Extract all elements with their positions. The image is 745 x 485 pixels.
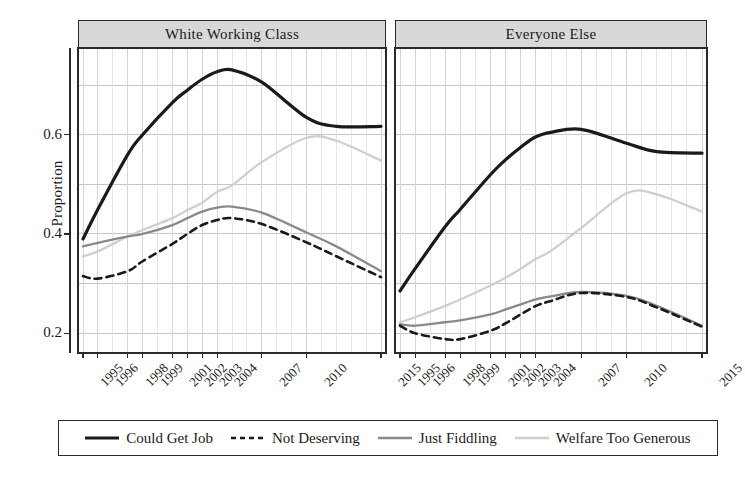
chart-legend: Could Get JobNot DeservingJust FiddlingW… [58,420,718,456]
legend-label: Not Deserving [272,430,360,447]
legend-swatch-solid-line-icon [378,433,412,443]
legend-swatch-solid-line-icon [515,433,549,443]
legend-label: Could Get Job [126,430,213,447]
legend-label: Welfare Too Generous [556,430,691,447]
legend-item[interactable]: Welfare Too Generous [515,430,691,447]
legend-swatch-dashed-line-icon [231,433,265,443]
legend-item[interactable]: Could Get Job [85,430,213,447]
legend-item[interactable]: Not Deserving [231,430,360,447]
legend-label: Just Fiddling [419,430,497,447]
legend-swatch-solid-line-icon [85,433,119,443]
legend-item[interactable]: Just Fiddling [378,430,497,447]
